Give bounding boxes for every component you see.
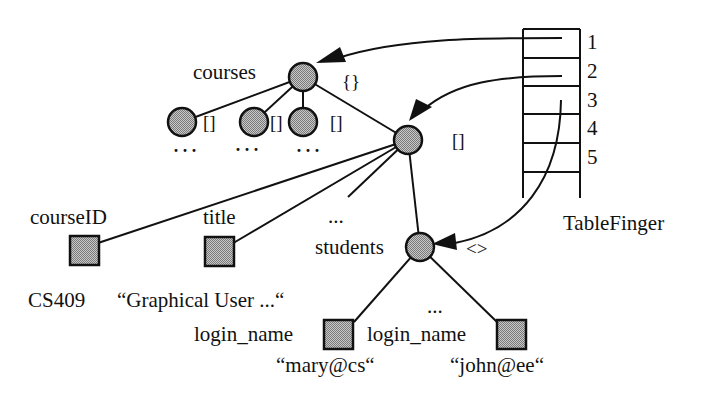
- value-title: “Graphical User ...“: [117, 290, 284, 311]
- table-name: TableFinger: [563, 213, 664, 234]
- value-login-1: “mary@cs“: [276, 355, 375, 376]
- pointer-arrows: [338, 38, 562, 243]
- value-login-2: “john@ee“: [450, 355, 544, 376]
- node-list: [394, 126, 422, 154]
- symbol-object: {}: [342, 72, 360, 91]
- symbol-array-1: []: [203, 113, 216, 132]
- symbol-array-3: []: [330, 113, 343, 132]
- table-row-1: 1: [587, 32, 598, 53]
- symbol-set: <>: [466, 239, 487, 258]
- leaf-login-1: [324, 320, 353, 349]
- table-row-3: 3: [587, 90, 598, 111]
- table-row-5: 5: [587, 147, 598, 168]
- node-courses: [289, 63, 317, 91]
- arrowhead-listnode: [409, 99, 432, 121]
- node-course-3: [289, 108, 317, 136]
- leaf-login-2: [497, 320, 526, 349]
- label-fields-ellipsis: ...: [328, 206, 344, 227]
- value-courseid: CS409: [28, 290, 85, 311]
- pointer-row1-courses: [338, 38, 562, 58]
- table-finger: [523, 29, 580, 198]
- symbol-array-list: []: [452, 131, 465, 150]
- label-courseid: courseID: [30, 207, 107, 228]
- label-title: title: [203, 207, 236, 228]
- node-course-1: [168, 108, 196, 136]
- label-students: students: [315, 237, 384, 258]
- ellipsis-3: ···: [296, 142, 323, 160]
- edge-listnode-students: [408, 140, 420, 247]
- table-row-4: 4: [587, 118, 598, 139]
- symbol-array-2: []: [270, 113, 283, 132]
- diagram-canvas: [0, 0, 710, 400]
- arrowhead-courses: [316, 47, 346, 63]
- label-courses: courses: [193, 62, 256, 83]
- leaf-title: [205, 237, 234, 266]
- label-login-1: login_name: [194, 324, 293, 345]
- students-ellipsis: ...: [427, 296, 443, 317]
- pointer-row2-listnode: [423, 76, 562, 110]
- arrowhead-students: [432, 233, 457, 250]
- label-login-2: login_name: [367, 324, 466, 345]
- table-row-2: 2: [587, 61, 598, 82]
- ellipsis-2: ···: [235, 141, 262, 159]
- leaf-courseid: [70, 236, 99, 265]
- node-course-2: [240, 108, 268, 136]
- ellipsis-1: ···: [173, 142, 200, 160]
- node-students: [406, 233, 434, 261]
